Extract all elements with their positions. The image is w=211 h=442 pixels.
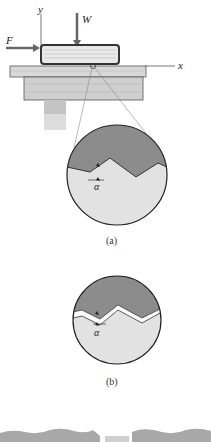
alpha-label-b: α <box>94 327 100 338</box>
friction-diagram: y W F x <box>0 0 211 442</box>
force-arrow: F <box>5 34 40 52</box>
table <box>10 66 146 130</box>
force-label: F <box>5 34 13 46</box>
caption-a: (a) <box>106 235 117 247</box>
bottom-surfaces <box>0 429 211 442</box>
caption-b: (b) <box>106 376 118 388</box>
x-axis: x <box>145 59 183 71</box>
weight-arrow: W <box>73 13 92 47</box>
zoom-circle-a <box>60 120 180 230</box>
alpha-label-a: α <box>94 181 100 192</box>
zoom-circle-b <box>60 270 180 370</box>
x-axis-label: x <box>177 59 183 71</box>
book <box>41 45 119 64</box>
y-axis-label: y <box>37 3 43 15</box>
weight-label: W <box>82 13 92 25</box>
y-axis: y <box>37 3 43 48</box>
